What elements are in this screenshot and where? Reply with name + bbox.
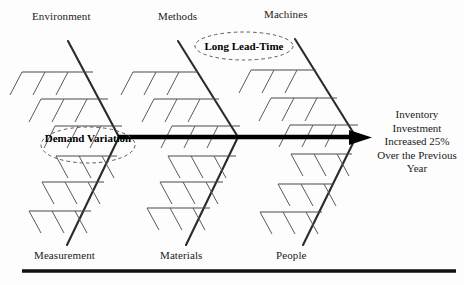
bone-group-people [260, 137, 356, 245]
twig-environment-1-3 [56, 72, 68, 95]
twig-machines-2-2 [282, 98, 294, 121]
twig-materials-1-1 [168, 156, 180, 178]
bone-machines [295, 39, 356, 137]
spine-arrowhead-icon [349, 130, 372, 145]
twig-people-3-1 [260, 212, 272, 234]
twig-measurement-2-2 [65, 182, 77, 204]
category-label-measurement: Measurement [34, 249, 95, 261]
twig-materials-3-1 [147, 208, 159, 230]
twig-methods-1-3 [167, 72, 179, 95]
twig-machines-1-3 [285, 70, 297, 93]
twig-machines-1-2 [262, 70, 274, 93]
twig-environment-2-3 [75, 99, 87, 122]
category-label-machines: Machines [264, 8, 308, 20]
callout-demand-line-2: Variation [87, 132, 131, 144]
twig-people-3-2 [283, 212, 295, 234]
bone-environment [68, 41, 119, 137]
twig-measurement-1-1 [56, 156, 68, 178]
callout-label-long-lead-time: Long Lead-Time [195, 40, 293, 53]
twig-people-2-3 [324, 184, 336, 206]
category-label-people: People [276, 249, 307, 261]
effect-line-3: Increased 25% [371, 135, 463, 149]
callout-demand-line-1: Demand [45, 132, 85, 144]
twig-measurement-2-1 [42, 182, 54, 204]
bone-group-methods [121, 41, 240, 148]
twig-environment-1-2 [33, 72, 45, 95]
bone-materials [186, 137, 238, 245]
twig-environment-2-1 [29, 99, 41, 122]
twig-methods-2-1 [142, 99, 154, 122]
fishbone-diagram-page: Environment Methods Machines Measurement… [0, 0, 464, 285]
twig-machines-1-1 [239, 70, 251, 93]
twig-methods-1-1 [121, 72, 133, 95]
twig-methods-2-3 [188, 99, 200, 122]
twig-materials-2-2 [183, 182, 195, 204]
twig-people-2-2 [301, 184, 313, 206]
twig-environment-1-1 [10, 72, 22, 95]
category-label-methods: Methods [158, 10, 197, 22]
twig-people-1-2 [314, 154, 326, 176]
twig-people-3-3 [306, 212, 318, 234]
twig-machines-2-3 [305, 98, 317, 121]
category-label-materials: Materials [160, 249, 202, 261]
twig-methods-2-2 [165, 99, 177, 122]
bone-group-machines [239, 39, 358, 147]
twig-materials-2-1 [160, 182, 172, 204]
effect-line-4: Over the Previous [371, 149, 463, 163]
callout-label-demand-variation: Demand Variation [41, 132, 135, 145]
twig-materials-1-2 [191, 156, 203, 178]
twig-measurement-3-1 [29, 211, 41, 233]
twig-materials-3-2 [170, 208, 182, 230]
effect-line-1: Inventory [371, 108, 463, 122]
twig-environment-2-2 [52, 99, 64, 122]
twig-people-1-1 [291, 154, 303, 176]
twig-methods-1-2 [144, 72, 156, 95]
effect-line-5: Year [371, 162, 463, 176]
twig-people-2-1 [278, 184, 290, 206]
effect-line-2: Investment [371, 122, 463, 136]
twig-measurement-3-2 [52, 211, 64, 233]
bone-group-materials [147, 137, 238, 245]
twig-measurement-1-2 [79, 156, 91, 178]
bone-people [303, 137, 356, 245]
twig-machines-2-1 [259, 98, 271, 121]
twig-measurement-2-3 [88, 182, 100, 204]
bone-group-measurement [29, 137, 119, 245]
category-label-environment: Environment [32, 10, 91, 22]
effect-statement: Inventory Investment Increased 25% Over … [371, 108, 463, 176]
bone-methods [178, 41, 238, 137]
